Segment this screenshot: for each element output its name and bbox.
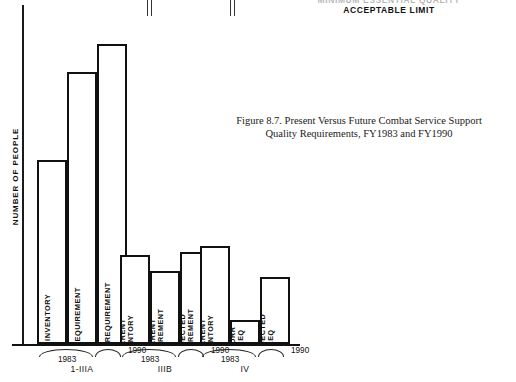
bar: CURRENT INVENTORY [37,160,67,344]
bar-label: CURRENT INVENTORY [44,293,52,344]
bar-label: PROJECTED REQUIREMENT [104,282,112,344]
year-label-1983: 1983 [221,355,239,364]
acceptable-limit-annotation: MINIMUM ESSENTIAL QUALITY ACCEPTABLE LIM… [284,0,494,15]
bar-label: CURRENTINVENTORY [200,315,215,344]
group-separator [147,0,148,16]
group-axis-IIIB: 19831990IIIB [120,344,210,382]
bar: PROJECTEDREQ [260,277,290,344]
group-separator [230,0,231,16]
group-axis-IV: 19831990IV [200,344,290,382]
bar-chart: NUMBER OF PEOPLE CURRENT INVENTORYCURREN… [0,0,300,382]
bar: CURRENT REQUIREMENT [67,72,97,344]
group-name-label: IIIB [120,364,210,374]
year-label-1990: 1990 [291,346,309,355]
annotation-line-1: MINIMUM ESSENTIAL QUALITY [284,0,494,5]
y-axis-label: NUMBER OF PEOPLE [11,102,20,252]
annotation-line-2: ACCEPTABLE LIMIT [343,5,435,15]
year-brace-1990 [95,349,121,357]
bar: CURRENTINVENTORY [120,255,150,344]
group-separator [234,0,235,16]
bar: CURRREQ [230,320,260,344]
group-axis-1-IIIA: 198319901-IIIA [37,344,127,382]
bar-label: CURRREQ [230,327,245,344]
group-separator [151,0,152,16]
bar-label: CURRENTREQUIREMENT [150,309,165,344]
bar-label: CURRENT REQUIREMENT [74,287,82,344]
year-brace-1990 [258,349,284,357]
y-axis-line [22,5,24,346]
bar-label: CURRENTINVENTORY [120,315,135,344]
group-name-label: 1-IIIA [37,364,127,374]
bar: CURRENTINVENTORY [200,246,230,344]
bar-label: PROJECTEDREQUIREMENT [180,309,195,344]
bar: CURRENTREQUIREMENT [150,271,180,344]
group-name-label: IV [200,364,290,374]
year-label-1983: 1983 [141,355,159,364]
bar-label: PROJECTEDREQ [260,314,275,344]
year-label-1983: 1983 [58,355,76,364]
